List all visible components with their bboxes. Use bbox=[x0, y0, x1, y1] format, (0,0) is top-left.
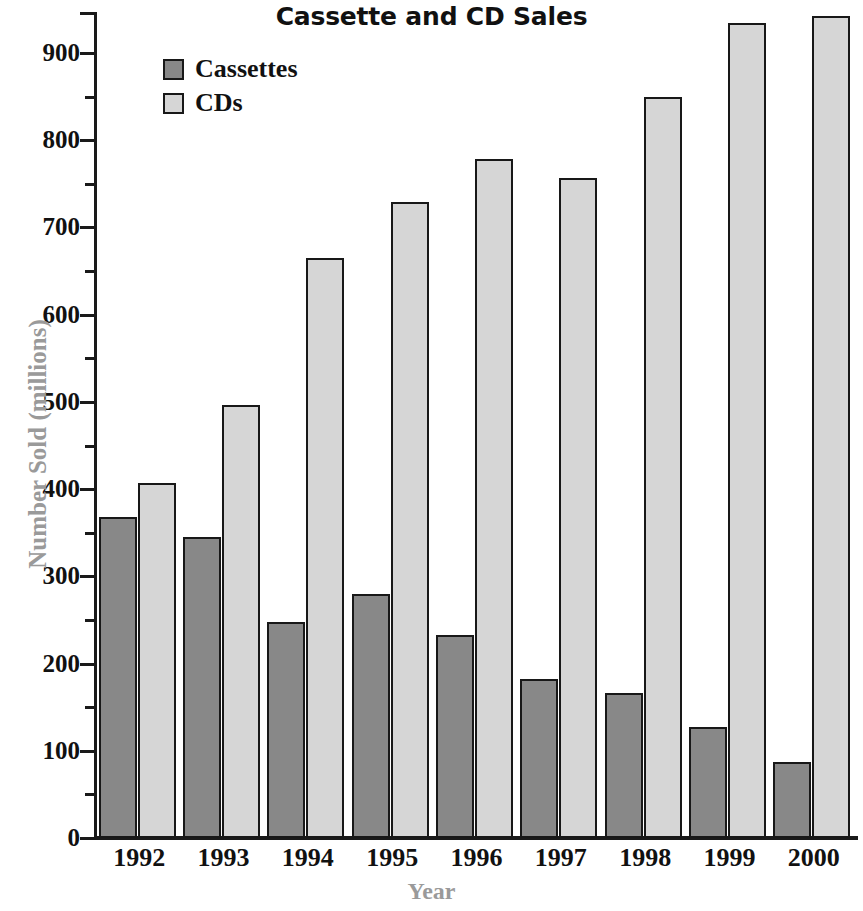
x-tick-label-1997: 1997 bbox=[519, 843, 603, 873]
y-tick-major bbox=[80, 575, 97, 578]
bar-cassettes-1995 bbox=[352, 594, 390, 838]
bar-cassettes-1997 bbox=[520, 679, 558, 838]
y-tick-major bbox=[80, 488, 97, 491]
bar-cassettes-1994 bbox=[267, 622, 305, 838]
bar-cassettes-1992 bbox=[99, 517, 137, 838]
legend: Cassettes CDs bbox=[163, 52, 298, 120]
y-axis-top-cap bbox=[80, 12, 97, 15]
legend-item-cds: CDs bbox=[163, 86, 298, 120]
bar-cds-1992 bbox=[138, 483, 176, 838]
bar-cassettes-1999 bbox=[689, 727, 727, 838]
y-tick-major bbox=[80, 663, 97, 666]
bar-cds-1993 bbox=[222, 405, 260, 838]
x-tick-label-1995: 1995 bbox=[350, 843, 434, 873]
bar-cassettes-2000 bbox=[773, 762, 811, 838]
bar-cds-1998 bbox=[644, 97, 682, 838]
bar-cassettes-1993 bbox=[183, 537, 221, 838]
y-tick-major bbox=[80, 314, 97, 317]
y-tick-major bbox=[80, 837, 97, 840]
bar-cassettes-1998 bbox=[605, 693, 643, 838]
y-tick-major bbox=[80, 226, 97, 229]
bar-cds-1995 bbox=[391, 202, 429, 838]
x-tick-label-2000: 2000 bbox=[772, 843, 856, 873]
x-tick-label-1998: 1998 bbox=[603, 843, 687, 873]
y-tick-major bbox=[80, 750, 97, 753]
x-axis-title: Year bbox=[0, 878, 863, 905]
plot-area bbox=[96, 12, 858, 838]
bar-cds-1996 bbox=[475, 159, 513, 838]
y-tick-label: 0 bbox=[8, 824, 80, 852]
bar-cassettes-1996 bbox=[436, 635, 474, 838]
bar-cds-2000 bbox=[812, 16, 850, 839]
x-tick-label-1996: 1996 bbox=[434, 843, 518, 873]
x-tick-label-1994: 1994 bbox=[266, 843, 350, 873]
legend-label-cassettes: Cassettes bbox=[195, 56, 298, 82]
bar-cds-1994 bbox=[306, 258, 344, 838]
x-tick-label-1992: 1992 bbox=[97, 843, 181, 873]
legend-swatch-cds-icon bbox=[163, 93, 184, 114]
y-axis-title: Number Sold (millions) bbox=[24, 124, 52, 764]
y-tick-major bbox=[80, 401, 97, 404]
y-tick-major bbox=[80, 139, 97, 142]
bar-cds-1997 bbox=[559, 178, 597, 838]
legend-label-cds: CDs bbox=[195, 90, 243, 116]
x-tick-label-1993: 1993 bbox=[181, 843, 265, 873]
legend-item-cassettes: Cassettes bbox=[163, 52, 298, 86]
bar-chart: Cassette and CD Sales 010020030040050060… bbox=[0, 0, 863, 911]
bar-cds-1999 bbox=[728, 23, 766, 838]
x-tick-label-1999: 1999 bbox=[687, 843, 771, 873]
legend-swatch-cassettes-icon bbox=[163, 59, 184, 80]
y-tick-label: 900 bbox=[8, 39, 80, 67]
y-tick-major bbox=[80, 52, 97, 55]
